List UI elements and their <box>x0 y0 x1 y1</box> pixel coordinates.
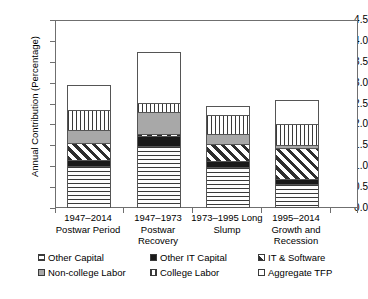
legend-swatch-icon <box>258 269 265 276</box>
legend-item[interactable]: IT & Software <box>258 252 325 264</box>
chart-legend: Other CapitalOther IT CapitalIT & Softwa… <box>0 252 368 294</box>
x-axis-category-label: 1995–2014Growth andRecession <box>253 212 339 247</box>
stacked-bar-chart: Annual Contribution (Percentage) 0.00.51… <box>0 0 368 299</box>
bar-segment[interactable] <box>67 130 111 144</box>
legend-label: IT & Software <box>268 252 325 264</box>
x-axis-tick-mark <box>357 208 358 213</box>
bar-segment[interactable] <box>275 124 319 146</box>
legend-label: Other Capital <box>48 252 104 264</box>
y-axis-title: Annual Contribution (Percentage) <box>29 7 40 207</box>
legend-swatch-icon <box>150 269 157 276</box>
bar-segment[interactable] <box>206 144 250 162</box>
legend-swatch-icon <box>150 254 157 261</box>
bar-segment[interactable] <box>275 184 319 208</box>
bar-segment[interactable] <box>137 112 181 135</box>
bar-segment[interactable] <box>67 166 111 208</box>
legend-label: Non-college Labor <box>48 267 126 279</box>
legend-swatch-icon <box>38 269 45 276</box>
bar-segment[interactable] <box>67 143 111 161</box>
legend-item[interactable]: College Labor <box>150 267 219 279</box>
bar-group[interactable] <box>206 106 250 207</box>
bar-segment[interactable] <box>275 148 319 179</box>
bar-segment[interactable] <box>206 115 250 135</box>
legend-item[interactable]: Other IT Capital <box>150 252 227 264</box>
legend-item[interactable]: Non-college Labor <box>38 267 126 279</box>
legend-label: Other IT Capital <box>160 252 227 264</box>
legend-label: College Labor <box>160 267 219 279</box>
plot-area <box>55 20 358 208</box>
bar-segment[interactable] <box>275 100 319 125</box>
legend-item[interactable]: Other Capital <box>38 252 104 264</box>
bar-segment[interactable] <box>67 85 111 111</box>
bar-segment[interactable] <box>206 167 250 208</box>
legend-swatch-icon <box>258 254 265 261</box>
bar-segment[interactable] <box>137 52 181 104</box>
bar-group[interactable] <box>275 100 319 207</box>
bar-group[interactable] <box>67 85 111 207</box>
bar-segment[interactable] <box>67 110 111 131</box>
legend-swatch-icon <box>38 254 45 261</box>
bar-group[interactable] <box>137 52 181 207</box>
bar-segment[interactable] <box>137 146 181 208</box>
legend-label: Aggregate TFP <box>268 267 332 279</box>
bar-series-container <box>56 21 357 207</box>
legend-item[interactable]: Aggregate TFP <box>258 267 332 279</box>
